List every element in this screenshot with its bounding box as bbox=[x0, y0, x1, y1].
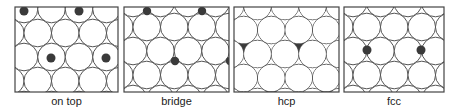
panel-hcp: hcp bbox=[230, 0, 343, 111]
substrate-atom-icon bbox=[79, 19, 107, 47]
substrate-atom-icon bbox=[188, 61, 216, 89]
substrate-atom-icon bbox=[422, 37, 450, 65]
substrate-atom-fill bbox=[299, 41, 326, 68]
substrate-atom-fill bbox=[285, 17, 312, 44]
panel-on-top: on top bbox=[11, 0, 122, 111]
panel-label-hcp: hcp bbox=[230, 94, 343, 108]
substrate-atom-icon bbox=[408, 13, 436, 41]
substrate-atom-icon bbox=[0, 19, 24, 47]
adsorbate-dot-icon bbox=[102, 54, 111, 63]
substrate-atom-icon bbox=[160, 13, 188, 41]
panel-label-bridge: bridge bbox=[120, 94, 233, 108]
adsorbate-dot-icon bbox=[47, 54, 56, 63]
substrate-atom-icon bbox=[435, 61, 459, 89]
adsorbate-dot-icon bbox=[198, 7, 206, 15]
adsorbate-dot-icon bbox=[417, 46, 426, 55]
substrate-atom-fill bbox=[244, 41, 271, 68]
adsorbate-dot-icon bbox=[363, 46, 372, 55]
substrate-atom-icon bbox=[0, 67, 24, 95]
substrate-atom-fill bbox=[313, 65, 340, 92]
substrate-atom-icon bbox=[380, 13, 408, 41]
substrate-atom-icon bbox=[24, 19, 52, 47]
substrate-atom-fill bbox=[272, 41, 299, 68]
panel-fcc: fcc bbox=[340, 0, 448, 111]
substrate-atom-icon bbox=[188, 13, 216, 41]
adsorbate-dot-icon bbox=[143, 7, 151, 15]
lattice-fcc-diagram bbox=[340, 0, 448, 96]
panel-bridge: bridge bbox=[120, 0, 233, 111]
substrate-atom-icon bbox=[160, 61, 188, 89]
adsorbate-dot-icon bbox=[20, 7, 29, 16]
adsorbate-dot-icon bbox=[75, 7, 84, 16]
substrate-atom-icon bbox=[147, 37, 175, 65]
substrate-atom-icon bbox=[24, 67, 52, 95]
substrate-atom-icon bbox=[10, 43, 38, 71]
substrate-atom-fill bbox=[285, 65, 312, 92]
substrate-atom-icon bbox=[79, 67, 107, 95]
substrate-atom-icon bbox=[380, 61, 408, 89]
substrate-atom-icon bbox=[353, 13, 381, 41]
lattice-hcp-diagram bbox=[230, 0, 343, 96]
panel-label-on-top: on top bbox=[11, 94, 122, 108]
substrate-atom-icon bbox=[202, 37, 230, 65]
lattice-on-top-diagram bbox=[11, 0, 122, 96]
adsorbate-dot-icon bbox=[171, 57, 179, 65]
substrate-atom-fill bbox=[313, 17, 340, 44]
substrate-atom-icon bbox=[353, 61, 381, 89]
substrate-atom-icon bbox=[408, 61, 436, 89]
panel-label-fcc: fcc bbox=[340, 94, 448, 108]
substrate-atom-icon bbox=[51, 19, 79, 47]
substrate-atom-fill bbox=[258, 17, 285, 44]
substrate-atom-icon bbox=[65, 43, 93, 71]
substrate-atom-fill bbox=[258, 65, 285, 92]
substrate-atom-icon bbox=[119, 37, 147, 65]
substrate-atom-icon bbox=[133, 13, 161, 41]
substrate-atom-icon bbox=[435, 13, 459, 41]
lattice-bridge-diagram bbox=[120, 0, 233, 96]
substrate-atom-icon bbox=[133, 61, 161, 89]
substrate-atom-icon bbox=[51, 67, 79, 95]
